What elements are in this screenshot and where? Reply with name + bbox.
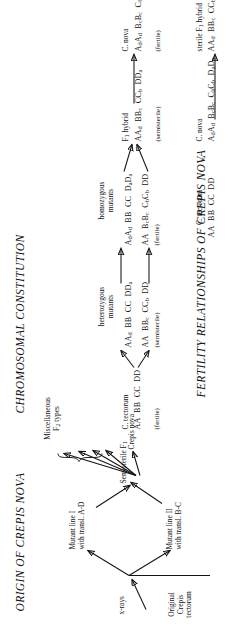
panel-fertility-arrows	[0, 0, 242, 635]
crepis-nova-figure: ORIGIN OF CREPIS NOVA Original Crepis te…	[0, 0, 242, 635]
panel-fertility: FERTILITY RELATIONSHIPS OF CREPIS NOVA C…	[0, 0, 242, 635]
